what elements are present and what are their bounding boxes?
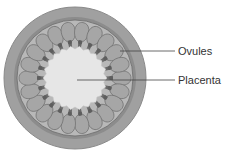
ovules-label: Ovules (178, 45, 212, 57)
placenta-label: Placenta (178, 74, 221, 86)
